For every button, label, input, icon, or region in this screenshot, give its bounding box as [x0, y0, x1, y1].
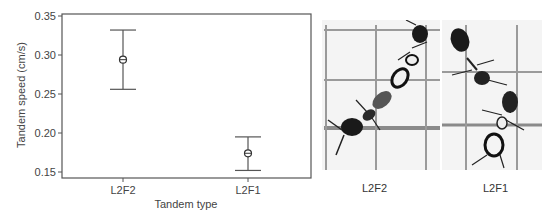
error-bar-l2f1 [235, 137, 261, 171]
y-tick-label: 0.20 [35, 127, 56, 139]
photo-label-l2f2: L2F2 [362, 182, 387, 194]
ant-tandem-image-l2f1 [442, 20, 542, 170]
error-bar-l2f2 [110, 30, 136, 89]
y-tick-label: 0.35 [35, 10, 56, 22]
ant-tandem-image-l2f2 [322, 20, 440, 170]
photo-l2f1 [442, 20, 542, 170]
x-axis-label: Tandem type [155, 198, 218, 210]
y-tick-label: 0.25 [35, 88, 56, 100]
x-tick-label: L2F2 [110, 184, 135, 196]
photo-l2f2 [322, 20, 440, 170]
photo-label-l2f1: L2F1 [483, 182, 508, 194]
y-tick-label: 0.15 [35, 166, 56, 178]
y-axis-label: Tandem speed (cm/s) [15, 42, 27, 148]
y-tick-label: 0.30 [35, 49, 56, 61]
plot-frame [62, 14, 311, 178]
x-tick-label: L2F1 [235, 184, 260, 196]
